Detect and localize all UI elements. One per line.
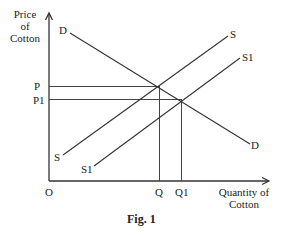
figure-caption: Fig. 1 [127, 213, 156, 225]
x-axis-label-line-1: Quantity of [213, 186, 275, 198]
y-axis-label-line-3: Cotton [8, 32, 42, 44]
demand-label-start: D [59, 24, 67, 36]
supply-shifted-label-start: S1 [81, 163, 93, 175]
demand-label-end: D [251, 139, 259, 151]
price-p1-label: P1 [33, 94, 45, 106]
supply-label-start: S [54, 151, 60, 163]
price-p-label: P [34, 80, 40, 92]
quantity-q-label: Q [155, 186, 163, 198]
x-axis-label-line-2: Cotton [213, 198, 275, 210]
supply-shifted-curve [94, 58, 240, 166]
x-axis-label: Quantity of Cotton [213, 186, 275, 210]
y-axis-label-line-1: Price [8, 8, 42, 20]
supply-curve [63, 36, 228, 155]
supply-shifted-label-end: S1 [242, 51, 254, 63]
supply-label-end: S [230, 28, 236, 40]
origin-label: O [45, 186, 53, 198]
quantity-q1-label: Q1 [175, 186, 188, 198]
y-axis-label-line-2: of [8, 20, 42, 32]
y-axis-label: Price of Cotton [8, 8, 42, 44]
